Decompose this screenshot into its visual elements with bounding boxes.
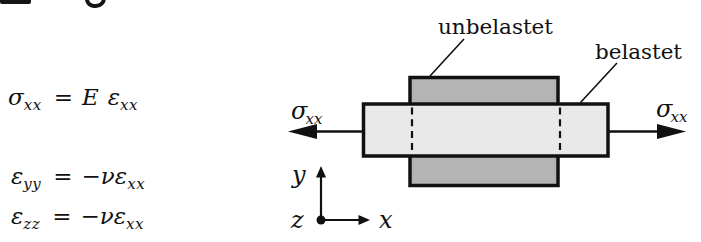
stress-label-left-subscript: xx <box>306 110 323 128</box>
textbook-page-crop: σxx=Eεxx εyy=−νεxx εzz=−νεxx unbelastet … <box>0 0 701 242</box>
x-axis-arrowhead <box>359 215 371 225</box>
stress-label-right-subscript: xx <box>671 108 688 126</box>
leader-line-loaded <box>581 63 618 103</box>
loaded-bar-rect <box>364 104 609 156</box>
z-axis-label: z <box>290 206 304 234</box>
z-axis-origin-dot <box>317 216 326 225</box>
x-axis-label: x <box>379 206 393 234</box>
leader-line-unloaded <box>430 39 464 76</box>
label-loaded: belastet <box>595 40 683 64</box>
label-unloaded: unbelastet <box>438 15 554 39</box>
bar-elongation-figure: unbelastet belastet σ xx σ xx y z x <box>0 0 701 242</box>
stress-arrow-right-head <box>657 124 686 139</box>
y-axis-label: y <box>291 161 306 189</box>
y-axis-arrowhead <box>316 166 326 178</box>
